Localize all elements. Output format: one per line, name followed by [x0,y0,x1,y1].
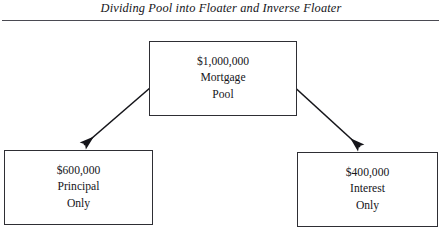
figure-canvas: Dividing Pool into Floater and Inverse F… [0,0,442,236]
node-mortgage-pool-label-line2: Pool [212,87,233,103]
node-interest-only: $400,000 Interest Only [297,152,438,227]
node-mortgage-pool: $1,000,000 Mortgage Pool [149,41,297,116]
node-mortgage-pool-label-line1: Mortgage [200,70,245,86]
node-interest-only-label-line2: Only [356,198,379,214]
node-interest-only-label-line1: Interest [350,181,385,197]
node-principal-only-label-line1: Principal [58,179,100,195]
node-principal-only: $600,000 Principal Only [4,150,153,225]
node-mortgage-pool-amount: $1,000,000 [197,54,249,70]
node-principal-only-label-line2: Only [67,196,90,212]
figure-title: Dividing Pool into Floater and Inverse F… [0,1,442,16]
arrow-pool-to-interest [296,89,360,148]
node-principal-only-amount: $600,000 [57,163,100,179]
arrow-pool-to-principal [84,88,151,146]
node-interest-only-amount: $400,000 [346,165,389,181]
title-divider [2,20,439,21]
